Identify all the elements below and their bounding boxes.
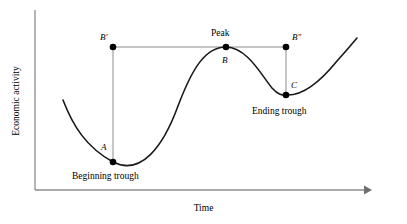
annotation-peak-caption: Peak — [0, 29, 407, 39]
point-marker-trough-a — [110, 159, 117, 166]
y-axis-label: Economic activity — [11, 61, 21, 141]
point-label-trough-a: A — [101, 143, 107, 152]
x-axis-arrow-icon — [364, 186, 372, 195]
x-axis-label: Time — [0, 203, 407, 213]
business-cycle-curve — [63, 38, 357, 166]
point-label-trough-c: C — [291, 81, 297, 90]
annotation-ending-trough-caption: Ending trough — [0, 107, 407, 117]
business-cycle-figure: B′ B B″ A C Peak Beginning trough Ending… — [0, 0, 407, 224]
annotation-beginning-trough-caption: Beginning trough — [0, 172, 407, 182]
point-marker-trough-c — [283, 92, 290, 99]
point-marker-peak — [223, 44, 230, 51]
point-label-peak-b: B — [222, 56, 228, 65]
point-marker-b-prime — [110, 44, 117, 51]
point-marker-b-double-prime — [283, 44, 290, 51]
